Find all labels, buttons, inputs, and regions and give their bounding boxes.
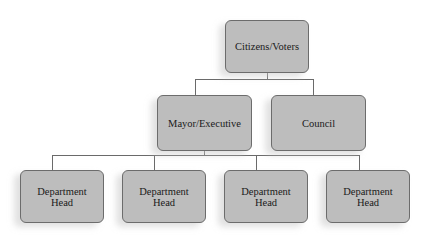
node-label-line2: Head	[241, 197, 291, 208]
connector-to-department-4	[359, 155, 360, 170]
connector-to-department-2	[154, 155, 155, 170]
node-department-head-4: Department Head	[326, 170, 410, 223]
connector-to-department-1	[52, 155, 53, 170]
node-label-line1: Department	[139, 186, 189, 197]
connector-top-horizontal	[195, 79, 314, 80]
node-label: Citizens/Voters	[235, 41, 299, 52]
connector-to-department-3	[256, 155, 257, 170]
node-council: Council	[271, 95, 366, 151]
node-label-line2: Head	[37, 197, 87, 208]
node-department-head-1: Department Head	[20, 170, 104, 223]
node-label-line1: Department	[37, 186, 87, 197]
connector-departments-horizontal	[52, 155, 360, 156]
node-citizens-voters: Citizens/Voters	[225, 20, 309, 73]
connector-to-council	[313, 79, 314, 95]
node-label-line1: Department	[343, 186, 393, 197]
node-label-line2: Head	[139, 197, 189, 208]
node-label: Mayor/Executive	[168, 118, 241, 129]
node-department-head-2: Department Head	[122, 170, 206, 223]
node-department-head-3: Department Head	[224, 170, 308, 223]
node-mayor-executive: Mayor/Executive	[157, 95, 252, 151]
connector-to-executive	[195, 79, 196, 95]
node-label-line2: Head	[343, 197, 393, 208]
node-label-line1: Department	[241, 186, 291, 197]
node-label: Council	[302, 118, 335, 129]
